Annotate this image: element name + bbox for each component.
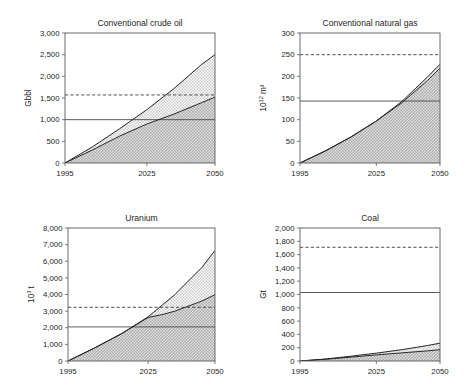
x-tick-label: 1995 bbox=[291, 169, 309, 178]
x-tick-label: 2050 bbox=[431, 367, 449, 376]
y-tick-label: 2,000 bbox=[43, 323, 63, 332]
y-tick-label: 1,200 bbox=[275, 277, 295, 286]
y-tick-label: 4,000 bbox=[43, 290, 63, 299]
chart-panel-conventional-crude-oil: 05001,0001,5002,0002,5003,00019952025205… bbox=[0, 0, 234, 196]
y-tick-label: 1,000 bbox=[40, 115, 60, 124]
y-tick-label: 400 bbox=[281, 330, 295, 339]
y-tick-label: 1,000 bbox=[43, 340, 63, 349]
y-tick-label: 150 bbox=[281, 94, 295, 103]
y-tick-label: 2,000 bbox=[40, 72, 60, 81]
x-tick-label: 2025 bbox=[368, 169, 386, 178]
y-tick-label: 8,000 bbox=[43, 224, 63, 233]
y-tick-label: 1,500 bbox=[40, 94, 60, 103]
y-axis-title: Gt bbox=[259, 289, 268, 298]
y-tick-label: 800 bbox=[281, 304, 295, 313]
y-tick-label: 1,000 bbox=[275, 290, 295, 299]
x-tick-label: 2050 bbox=[206, 367, 224, 376]
y-tick-label: 2,500 bbox=[40, 50, 60, 59]
chart-title: Coal bbox=[361, 213, 379, 223]
y-tick-label: 3,000 bbox=[40, 29, 60, 38]
y-tick-label: 0 bbox=[290, 357, 295, 366]
y-tick-label: 600 bbox=[281, 317, 295, 326]
chart-title: Uranium bbox=[125, 213, 157, 223]
x-tick-label: 1995 bbox=[59, 367, 77, 376]
y-tick-label: 200 bbox=[281, 343, 295, 352]
chart-title: Conventional crude oil bbox=[97, 18, 182, 28]
y-axis-title: 103 t bbox=[26, 285, 36, 303]
chart-panel-uranium: 01,0002,0003,0004,0005,0006,0007,0008,00… bbox=[0, 195, 234, 391]
y-tick-label: 1,400 bbox=[275, 264, 295, 273]
y-tick-label: 1,800 bbox=[275, 237, 295, 246]
y-tick-label: 0 bbox=[290, 159, 295, 168]
x-tick-label: 1995 bbox=[56, 169, 74, 178]
x-tick-label: 2050 bbox=[431, 169, 449, 178]
y-tick-label: 250 bbox=[281, 50, 295, 59]
x-tick-label: 1995 bbox=[291, 367, 309, 376]
x-tick-label: 2025 bbox=[140, 367, 158, 376]
y-tick-label: 5,000 bbox=[43, 274, 63, 283]
y-tick-label: 0 bbox=[58, 357, 63, 366]
y-tick-label: 100 bbox=[281, 115, 295, 124]
x-tick-label: 2025 bbox=[138, 169, 156, 178]
y-tick-label: 200 bbox=[281, 72, 295, 81]
y-tick-label: 50 bbox=[286, 137, 295, 146]
y-tick-label: 500 bbox=[46, 137, 60, 146]
four-panel-resource-chart-figure: 05001,0001,5002,0002,5003,00019952025205… bbox=[0, 0, 468, 391]
y-axis-title: Gbbl bbox=[24, 89, 33, 106]
y-tick-label: 7,000 bbox=[43, 240, 63, 249]
y-tick-label: 2,000 bbox=[275, 224, 295, 233]
y-tick-label: 0 bbox=[55, 159, 60, 168]
y-axis-title: 1012 m³ bbox=[258, 84, 268, 111]
chart-panel-conventional-natural-gas: 050100150200250300199520252050Convention… bbox=[234, 0, 468, 196]
y-tick-label: 6,000 bbox=[43, 257, 63, 266]
chart-panel-coal: 02004006008001,0001,2001,4001,6001,8002,… bbox=[234, 195, 468, 391]
y-tick-label: 1,600 bbox=[275, 250, 295, 259]
x-tick-label: 2025 bbox=[368, 367, 386, 376]
y-tick-label: 3,000 bbox=[43, 307, 63, 316]
x-tick-label: 2050 bbox=[206, 169, 224, 178]
chart-title: Conventional natural gas bbox=[322, 18, 417, 28]
y-tick-label: 300 bbox=[281, 29, 295, 38]
